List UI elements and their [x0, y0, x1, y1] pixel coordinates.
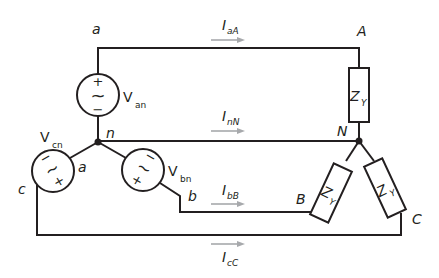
label-node-N: N — [337, 123, 348, 139]
wire-n-vcn — [70, 142, 98, 158]
label-node-a: a — [92, 21, 101, 37]
label-node-A: A — [356, 23, 367, 39]
label-node-c: c — [18, 181, 26, 197]
wire-b — [160, 183, 318, 212]
source-vbn: + ~ − — [122, 147, 164, 191]
label-vcn-main: V — [40, 129, 50, 145]
node-N — [356, 138, 363, 145]
three-phase-circuit-diagram: + ~ − V an + ~ − V cn + ~ − V bn Z Y Z Y — [0, 0, 439, 278]
label-node-n: n — [106, 125, 115, 141]
source-van: + ~ − — [77, 74, 119, 117]
current-inn: I nN — [211, 108, 245, 134]
svg-text:I: I — [222, 108, 226, 124]
impedance-zc: Z Y — [364, 158, 406, 217]
wire-n-zc — [359, 141, 374, 161]
label-vbn-main: V — [168, 163, 178, 179]
svg-text:Z: Z — [349, 88, 360, 104]
minus-icon: − — [93, 102, 104, 117]
svg-text:cC: cC — [227, 258, 239, 268]
wire-c — [37, 180, 401, 235]
label-node-C: C — [412, 211, 422, 227]
svg-text:I: I — [222, 249, 226, 265]
svg-text:aA: aA — [227, 26, 239, 36]
node-n — [95, 139, 102, 146]
wire-n-vbn — [98, 142, 126, 158]
impedance-za: Z Y — [349, 68, 369, 122]
current-icc: I cC — [211, 241, 245, 268]
label-node-B: B — [296, 191, 306, 207]
impedance-zb: Z Y — [310, 163, 352, 222]
svg-text:I: I — [222, 17, 226, 33]
arrow-right-icon — [237, 201, 245, 207]
svg-text:I: I — [222, 182, 226, 198]
svg-text:nN: nN — [227, 117, 240, 127]
label-node-a-inner: a — [78, 159, 87, 175]
arrow-right-icon — [237, 241, 245, 247]
label-van-main: V — [123, 89, 133, 105]
label-vbn-sub: bn — [180, 174, 191, 184]
label-van-sub: an — [135, 100, 146, 110]
wire-a — [98, 48, 359, 142]
label-node-b: b — [188, 188, 197, 204]
current-ibb: I bB — [211, 182, 245, 207]
arrow-right-icon — [237, 128, 245, 134]
wire-n-zb — [346, 141, 359, 161]
label-vcn-sub: cn — [52, 140, 63, 150]
current-iaa: I aA — [211, 17, 245, 43]
arrow-right-icon — [237, 37, 245, 43]
source-vcn: + ~ − — [32, 148, 74, 192]
svg-text:bB: bB — [227, 191, 239, 201]
